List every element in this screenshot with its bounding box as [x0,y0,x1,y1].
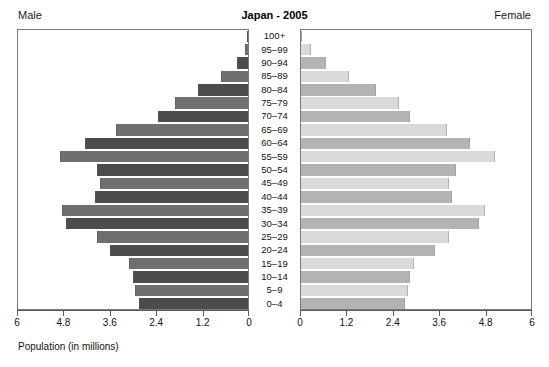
female-axis-tick-label: 1.2 [339,317,353,328]
male-bar-55_59 [60,151,248,162]
female-x-axis-tick-labels: 01.22.43.64.86 [300,317,532,331]
age-group-label: 65–69 [249,123,300,136]
bar-row [301,43,531,56]
chart-header: Male Japan - 2005 Female [0,9,549,25]
female-bar-60_64 [301,138,470,149]
age-group-label: 20–24 [249,243,300,256]
age-group-label: 75–79 [249,96,300,109]
male-bar-100+ [247,31,248,42]
chart-title: Japan - 2005 [0,9,549,21]
female-axis-tick [300,310,301,316]
female-bar-75_79 [301,97,399,108]
age-group-label: 80–84 [249,83,300,96]
bar-row [301,150,531,163]
bar-row [301,110,531,123]
bar-row [301,70,531,83]
female-bar-85_89 [301,71,349,82]
age-group-label: 95–99 [249,43,300,56]
male-axis-tick-label: 0 [246,317,252,328]
female-axis-tick [439,310,440,316]
male-bar-65_69 [116,124,248,135]
bar-row [18,110,248,123]
male-bar-75_79 [175,97,248,108]
female-bar-40_44 [301,191,452,202]
bar-row [18,271,248,284]
female-axis-tick [486,310,487,316]
age-group-label: 50–54 [249,163,300,176]
bar-row [18,284,248,297]
male-bar-45_49 [100,178,248,189]
female-bar-80_84 [301,84,376,95]
female-bar-15_19 [301,258,414,269]
age-group-label: 40–44 [249,190,300,203]
male-bar-15_19 [129,258,248,269]
female-bar-50_54 [301,164,456,175]
male-bar-10_14 [133,271,248,282]
male-x-axis [17,310,249,317]
female-bar-5_9 [301,285,408,296]
bar-row [301,298,531,310]
male-axis-tick-label: 2.4 [149,317,163,328]
bar-row [301,84,531,97]
male-bar-5_9 [135,285,248,296]
female-axis-tick-label: 3.6 [432,317,446,328]
bar-row [301,97,531,110]
bar-row [301,177,531,190]
bar-row [301,284,531,297]
x-axis-caption: Population (in millions) [18,341,119,352]
male-bar-70_74 [158,111,248,122]
bar-row [18,30,248,43]
female-axis-tick-label: 2.4 [386,317,400,328]
bar-row [18,97,248,110]
male-axis-tick-label: 6 [14,317,20,328]
bar-row [18,43,248,56]
bar-row [18,70,248,83]
male-axis-tick [248,310,249,316]
bar-row [18,231,248,244]
female-plot-panel [300,29,532,310]
population-pyramid-chart: Male Japan - 2005 Female 100+95–9990–948… [0,0,549,367]
male-plot-panel [17,29,249,310]
age-group-label: 90–94 [249,56,300,69]
female-x-axis [300,310,532,317]
bar-row [18,298,248,310]
female-bar-35_39 [301,205,485,216]
age-group-label: 55–59 [249,150,300,163]
female-bar-0_4 [301,298,405,309]
male-axis-tick [17,310,18,316]
female-axis-tick-label: 4.8 [479,317,493,328]
age-group-label: 0–4 [249,297,300,310]
male-axis-tick-label: 1.2 [196,317,210,328]
bar-row [301,204,531,217]
male-bar-85_89 [221,71,248,82]
male-bar-35_39 [62,205,248,216]
male-axis-tick [156,310,157,316]
bar-row [18,150,248,163]
male-bar-80_84 [198,84,248,95]
bar-row [301,271,531,284]
bar-row [18,177,248,190]
age-group-label: 70–74 [249,109,300,122]
bar-row [301,30,531,43]
female-bar-65_69 [301,124,447,135]
male-axis-tick-label: 4.8 [56,317,70,328]
age-group-label: 10–14 [249,270,300,283]
bar-row [18,137,248,150]
age-group-label: 85–89 [249,69,300,82]
female-axis-tick [393,310,394,316]
female-bar-20_24 [301,245,435,256]
male-axis-tick [110,310,111,316]
male-axis-tick [63,310,64,316]
bar-row [301,217,531,230]
age-group-label: 35–39 [249,203,300,216]
female-side-label: Female [494,9,531,21]
female-bar-25_29 [301,231,449,242]
age-group-label: 45–49 [249,176,300,189]
male-bar-95_99 [245,44,248,55]
age-group-label: 60–64 [249,136,300,149]
female-bar-100+ [301,31,302,42]
bar-row [18,191,248,204]
male-bar-25_29 [97,231,248,242]
bar-row [301,137,531,150]
bar-row [301,57,531,70]
